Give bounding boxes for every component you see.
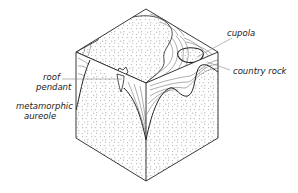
label-aureole-2: aureole <box>24 112 56 121</box>
label-cupola: cupola <box>227 29 255 38</box>
label-aureole-1: metamorphic <box>16 102 73 111</box>
label-roof-pendant-1: roof <box>43 73 60 82</box>
label-roof-pendant-2: pendant <box>36 83 71 92</box>
label-country-rock: country rock <box>233 67 287 76</box>
